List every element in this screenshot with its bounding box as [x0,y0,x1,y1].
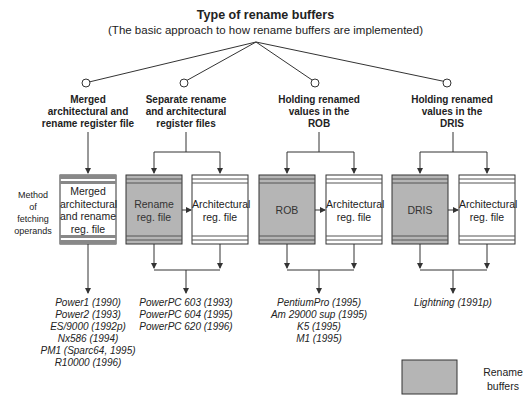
examples-rob: PentiumPro (1995) Am 29000 sup (1995) K5… [244,297,394,345]
box-label-rename: Rename reg. file [126,198,182,223]
category-dris: Holding renamed values in the DRIS [392,94,512,130]
example-item: Am 29000 sup (1995) [244,309,394,321]
category-rob: Holding renamed values in the ROB [259,94,379,130]
example-item: PM1 (Sparc64, 1995) [13,345,163,357]
box-label-arch-2: Architectural reg. file [192,198,248,223]
example-item: PowerPC 620 (1996) [111,321,261,333]
example-item: PowerPC 604 (1995) [111,309,261,321]
examples-separate: PowerPC 603 (1993) PowerPC 604 (1995) Po… [111,297,261,333]
box-label-arch-3: Architectural reg. file [326,198,382,223]
legend-swatch [402,360,457,394]
example-item: Lightning (1991p) [378,297,528,309]
tree-nodes [82,79,451,87]
example-item: R10000 (1996) [13,357,163,369]
box-label-dris: DRIS [392,204,448,217]
category-separate: Separate rename and architectural regist… [126,94,246,130]
box-label-arch-4: Architectural reg. file [459,198,515,223]
diagram-subtitle: (The basic approach to how rename buffer… [0,24,531,36]
node-circle [180,79,188,87]
legend-label: Rename buffers [478,365,528,393]
box-label-merged: Merged architectural and rename reg. fil… [60,185,116,235]
node-circle [311,79,319,87]
example-item: PowerPC 603 (1993) [111,297,261,309]
node-circle [82,79,90,87]
example-item: K5 (1995) [244,321,394,333]
diagram-title: Type of rename buffers [0,8,531,22]
example-item: PentiumPro (1995) [244,297,394,309]
example-item: Nx586 (1994) [13,333,163,345]
example-item: M1 (1995) [244,333,394,345]
examples-dris: Lightning (1991p) [378,297,528,309]
node-circle [443,79,451,87]
box-label-rob: ROB [259,204,315,217]
row-label: Method of fetching operands [8,189,58,237]
